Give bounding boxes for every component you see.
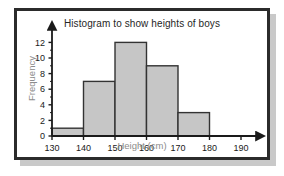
bar-160-170 bbox=[147, 66, 179, 136]
x-axis-label: Height (cm) bbox=[17, 140, 267, 151]
plot-area: Histogram to show heights of boys bbox=[17, 11, 267, 157]
y-axis bbox=[49, 29, 53, 136]
bar-150-160 bbox=[115, 42, 147, 136]
y-tick-label-4: 4 bbox=[40, 100, 45, 110]
figure-container: Histogram to show heights of boys bbox=[14, 8, 270, 160]
bar-130-140 bbox=[52, 128, 84, 136]
y-tick-label-8: 8 bbox=[40, 69, 45, 79]
y-tick-label-2: 2 bbox=[40, 116, 45, 126]
y-axis-label: Frequency bbox=[26, 44, 37, 114]
bars-group bbox=[52, 42, 210, 136]
bar-170-180 bbox=[178, 113, 210, 136]
histogram-svg: 0 2 4 6 8 10 12 bbox=[17, 11, 267, 157]
figure-frame: Histogram to show heights of boys bbox=[14, 8, 270, 160]
bar-140-150 bbox=[84, 81, 116, 136]
y-tick-label-6: 6 bbox=[40, 84, 45, 94]
